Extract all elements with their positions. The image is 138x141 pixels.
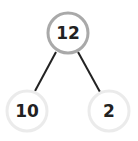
- connector-right: [78, 52, 100, 92]
- whole-node: 12: [48, 13, 88, 53]
- part-node-right: 2: [89, 91, 129, 131]
- part-node-left: 10: [7, 91, 47, 131]
- whole-value: 12: [56, 23, 80, 43]
- part-left-value: 10: [15, 101, 39, 121]
- number-bond-diagram: 12 10 2: [0, 0, 138, 141]
- part-right-value: 2: [103, 101, 115, 121]
- connector-left: [35, 52, 56, 91]
